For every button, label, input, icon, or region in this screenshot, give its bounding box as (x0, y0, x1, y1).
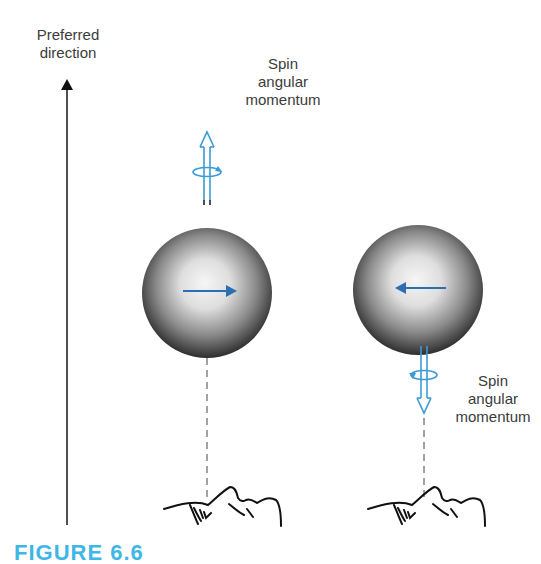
observer-face-icon (368, 487, 485, 526)
figure-caption: FIGURE 6.6 (14, 540, 144, 564)
preferred-direction-arrow (61, 79, 73, 525)
right-sphere (353, 225, 483, 355)
observer-face-icon (164, 487, 281, 526)
spin-down-arrow-icon (409, 346, 437, 413)
left-sphere (142, 228, 272, 358)
spin-up-arrow-icon (193, 132, 222, 205)
